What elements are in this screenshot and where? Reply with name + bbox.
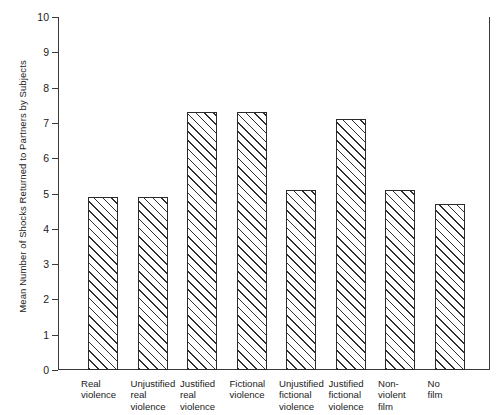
y-tick-mark bbox=[52, 17, 58, 18]
y-tick-label: 2 bbox=[43, 293, 49, 305]
y-axis-title: Mean Number of Shocks Returned to Partne… bbox=[17, 27, 28, 347]
y-tick-mark bbox=[52, 194, 58, 195]
x-category-label-1: Real violence bbox=[81, 378, 128, 401]
y-tick-label: 8 bbox=[43, 82, 49, 94]
bar-2 bbox=[138, 197, 168, 370]
y-tick-mark bbox=[52, 299, 58, 300]
y-tick-label: 0 bbox=[43, 364, 49, 376]
bar-chart-figure: Mean Number of Shocks Returned to Partne… bbox=[0, 0, 500, 415]
x-category-label-5: Unjustified fictional violence bbox=[279, 378, 326, 412]
y-tick-mark bbox=[52, 370, 58, 371]
y-tick-label: 5 bbox=[43, 188, 49, 200]
y-tick-label: 6 bbox=[43, 152, 49, 164]
y-tick-label: 7 bbox=[43, 117, 49, 129]
right-border-line bbox=[489, 17, 490, 370]
y-tick-label: 10 bbox=[37, 11, 49, 23]
y-tick-mark bbox=[52, 123, 58, 124]
bar-3 bbox=[187, 112, 217, 370]
plot-area: 012345678910 bbox=[58, 17, 490, 370]
y-tick-mark bbox=[52, 335, 58, 336]
y-tick-mark bbox=[52, 88, 58, 89]
x-category-label-2: Unjustified real violence bbox=[131, 378, 178, 412]
y-axis-line bbox=[58, 17, 59, 370]
y-tick-label: 9 bbox=[43, 46, 49, 58]
bar-8 bbox=[435, 204, 465, 370]
x-category-label-8: No film bbox=[428, 378, 475, 401]
bar-5 bbox=[286, 190, 316, 370]
bar-4 bbox=[237, 112, 267, 370]
y-tick-mark bbox=[52, 158, 58, 159]
y-tick-mark bbox=[52, 264, 58, 265]
x-axis-line bbox=[58, 369, 490, 370]
x-category-label-3: Justified real violence bbox=[180, 378, 227, 412]
y-tick-label: 1 bbox=[43, 329, 49, 341]
y-tick-mark bbox=[52, 52, 58, 53]
bar-1 bbox=[88, 197, 118, 370]
x-category-label-4: Fictional violence bbox=[230, 378, 277, 401]
bar-6 bbox=[336, 119, 366, 370]
x-category-label-7: Non- violent film bbox=[378, 378, 425, 412]
bar-7 bbox=[385, 190, 415, 370]
y-tick-mark bbox=[52, 229, 58, 230]
y-tick-label: 3 bbox=[43, 258, 49, 270]
y-tick-label: 4 bbox=[43, 223, 49, 235]
x-category-label-6: Justified fictional violence bbox=[329, 378, 376, 412]
